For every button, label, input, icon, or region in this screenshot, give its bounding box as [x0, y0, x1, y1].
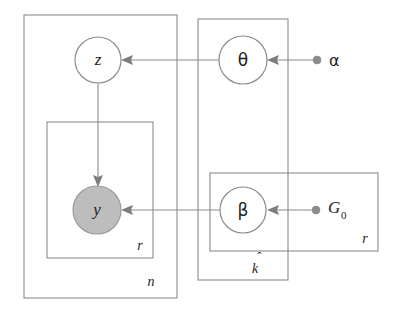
node-y-label: y — [91, 200, 101, 219]
plate-r-components-label: r — [362, 231, 368, 246]
plate-r-observations-label: r — [137, 238, 143, 253]
hyperparameter-G0-label: G — [328, 198, 340, 217]
plate-k-hat-label: k — [252, 261, 259, 276]
plate-k-hat-accent-icon: ̂ — [257, 252, 262, 254]
plate-n-label: n — [148, 274, 155, 289]
hyperparameter-alpha-label: α — [329, 51, 340, 70]
hyperparameter-alpha-dot — [313, 56, 321, 64]
node-beta-label: β — [238, 200, 249, 220]
hyperparameter-G0-dot — [312, 206, 320, 214]
diagram-canvas: z θ y β α G 0 n r k ̂ r — [0, 0, 400, 320]
hyperparameter-G0-subscript: 0 — [341, 209, 347, 221]
node-z-label: z — [94, 50, 102, 69]
plate-diagram: z θ y β α G 0 n r k ̂ r — [0, 0, 400, 320]
node-theta-label: θ — [238, 50, 248, 70]
